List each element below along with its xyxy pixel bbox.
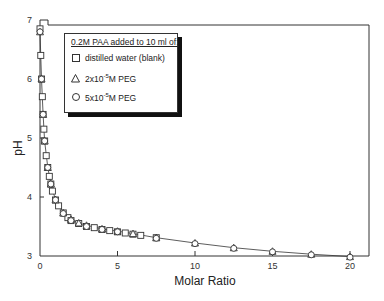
svg-text:0: 0 [37, 261, 42, 271]
svg-text:5: 5 [27, 133, 32, 143]
svg-text:3: 3 [27, 251, 32, 261]
chart-canvas: 0510152034567 Molar Ratio pH [0, 0, 384, 301]
svg-text:7: 7 [27, 15, 32, 25]
y-axis-title: pH [11, 140, 25, 155]
square-marker-icon [72, 54, 80, 62]
svg-text:15: 15 [267, 261, 277, 271]
x-axis-title: Molar Ratio [174, 274, 236, 288]
legend: 0.2M PAA added to 10 ml of: distilled wa… [64, 33, 178, 113]
circle-marker-icon [72, 93, 80, 101]
legend-item-peg-5e-5: 5x10-5M PEG [71, 92, 136, 103]
legend-title: 0.2M PAA added to 10 ml of: [71, 37, 179, 47]
svg-text:6: 6 [27, 74, 32, 84]
svg-text:10: 10 [190, 261, 200, 271]
triangle-marker-icon [71, 74, 80, 83]
legend-label: 2x10-5M PEG [85, 73, 136, 84]
svg-text:20: 20 [345, 261, 355, 271]
legend-label: 5x10-5M PEG [85, 92, 136, 103]
svg-text:5: 5 [115, 261, 120, 271]
legend-item-peg-2e-5: 2x10-5M PEG [71, 73, 136, 84]
legend-item-blank: distilled water (blank) [71, 53, 165, 63]
svg-text:4: 4 [27, 192, 32, 202]
legend-label: distilled water (blank) [85, 53, 165, 63]
